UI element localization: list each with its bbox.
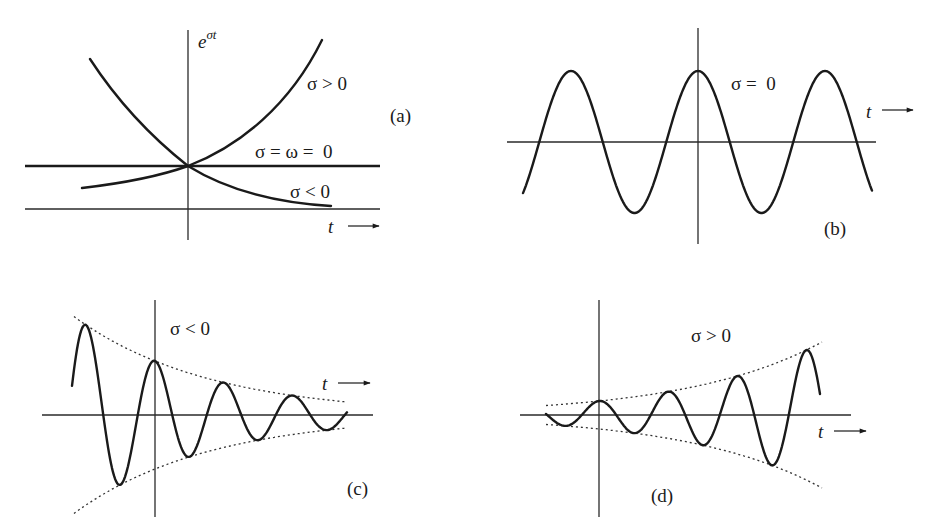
panel-c-damped-oscillation bbox=[72, 325, 347, 485]
panel-c-upper-envelope bbox=[74, 317, 346, 402]
panel-a-y-label: eσt bbox=[198, 27, 217, 52]
signal-figure: eσt σ > 0 (a) σ = ω = 0 σ < 0 t σ = 0 t … bbox=[0, 0, 926, 532]
panel-d-t-label: t bbox=[818, 421, 824, 442]
panel-a-t-label: t bbox=[328, 216, 334, 237]
panel-c-label-panel: (c) bbox=[347, 478, 368, 500]
panel-a-label-sigma-zero: σ = ω = 0 bbox=[255, 141, 332, 162]
panel-c-lower-envelope bbox=[74, 428, 346, 513]
panel-a-label-sigma-pos: σ > 0 bbox=[307, 73, 347, 94]
panel-b-t-label: t bbox=[866, 101, 872, 122]
panel-b-label-panel: (b) bbox=[824, 218, 846, 240]
panel-d: σ > 0 t (d) bbox=[520, 300, 866, 517]
panel-a-label-panel: (a) bbox=[390, 105, 411, 127]
panel-c: σ < 0 t (c) bbox=[42, 300, 373, 517]
panel-c-label-sigma-neg: σ < 0 bbox=[170, 318, 210, 339]
panel-d-label-sigma-pos: σ > 0 bbox=[691, 325, 731, 346]
panel-d-label-panel: (d) bbox=[651, 485, 673, 507]
panel-d-lower-envelope bbox=[546, 425, 822, 489]
panel-a-label-sigma-neg: σ < 0 bbox=[290, 181, 330, 202]
panel-d-upper-envelope bbox=[546, 342, 822, 406]
panel-b-label-sigma-zero: σ = 0 bbox=[731, 73, 776, 94]
panel-b: σ = 0 t (b) bbox=[507, 28, 913, 244]
panel-c-t-label: t bbox=[322, 373, 328, 394]
panel-d-growing-oscillation bbox=[546, 350, 820, 465]
panel-a: eσt σ > 0 (a) σ = ω = 0 σ < 0 t bbox=[25, 27, 411, 240]
